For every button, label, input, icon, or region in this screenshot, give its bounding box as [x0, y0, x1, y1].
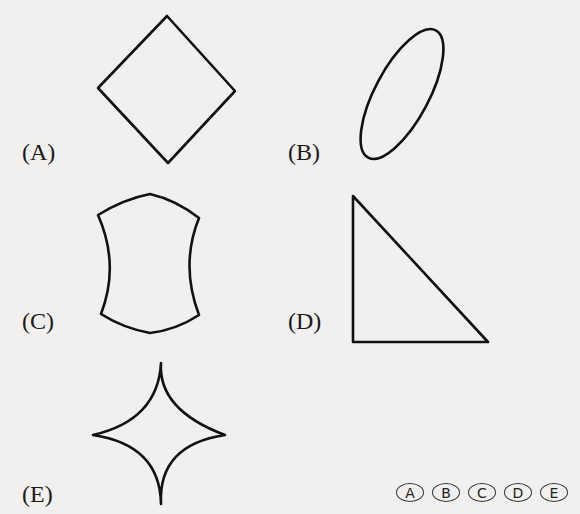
figure-d-right-triangle — [353, 196, 488, 342]
figure-d-label: (D) — [288, 309, 321, 333]
figure-c-concave-hexagon — [98, 194, 199, 333]
figure-b-label: (B) — [288, 140, 320, 164]
figure-a-label: (A) — [22, 140, 55, 164]
figure-b-ellipse — [344, 18, 459, 170]
answer-bubble-c[interactable]: C — [468, 483, 496, 502]
answer-bubble-a[interactable]: A — [396, 483, 424, 502]
figure-e-star — [93, 363, 225, 504]
figure-a-diamond — [98, 16, 235, 163]
answer-bubble-e[interactable]: E — [540, 483, 568, 502]
test-page: (A) (B) (C) (D) (E) A B C D E — [0, 0, 580, 514]
figure-canvas — [0, 0, 580, 514]
figure-e-label: (E) — [22, 482, 53, 506]
answer-bubble-b[interactable]: B — [432, 483, 460, 502]
answer-bubble-d[interactable]: D — [504, 483, 532, 502]
figure-c-label: (C) — [22, 309, 54, 333]
answer-bubble-row: A B C D E — [396, 483, 568, 502]
